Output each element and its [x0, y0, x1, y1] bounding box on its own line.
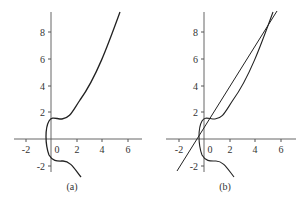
- x-tick-label: 6: [279, 144, 284, 155]
- x-tick-label: 4: [100, 144, 105, 155]
- y-tick-label: -2: [190, 161, 198, 172]
- x-tick-label: 2: [228, 144, 233, 155]
- y-tick-label: 8: [40, 27, 45, 38]
- figure: -2 0 2 4 6 8 6 4 2 -2 (a) -2 0 2 4 6: [0, 0, 305, 202]
- y-tick-label: 6: [40, 54, 45, 65]
- y-tick-label: 6: [193, 54, 198, 65]
- y-tick-label: 8: [193, 27, 198, 38]
- y-tick-label: 4: [193, 81, 198, 92]
- x-tick-label: 2: [75, 144, 80, 155]
- x-tick-label: -2: [22, 144, 30, 155]
- x-tick-label: 0: [208, 144, 213, 155]
- y-tick-label: 4: [40, 81, 45, 92]
- x-tick-label: 4: [253, 144, 258, 155]
- panel-b: -2 0 2 4 6 8 6 4 2 -2 (b): [166, 11, 296, 193]
- y-tick-label: 2: [40, 107, 45, 118]
- panel-label: (b): [219, 181, 231, 193]
- x-tick-label: -2: [175, 144, 183, 155]
- panel-a: -2 0 2 4 6 8 6 4 2 -2 (a): [14, 12, 142, 193]
- y-tick-label: 2: [193, 107, 198, 118]
- x-tick-label: 0: [55, 144, 60, 155]
- y-tick-label: -2: [37, 161, 45, 172]
- panel-label: (a): [66, 181, 77, 193]
- x-tick-label: 6: [126, 144, 131, 155]
